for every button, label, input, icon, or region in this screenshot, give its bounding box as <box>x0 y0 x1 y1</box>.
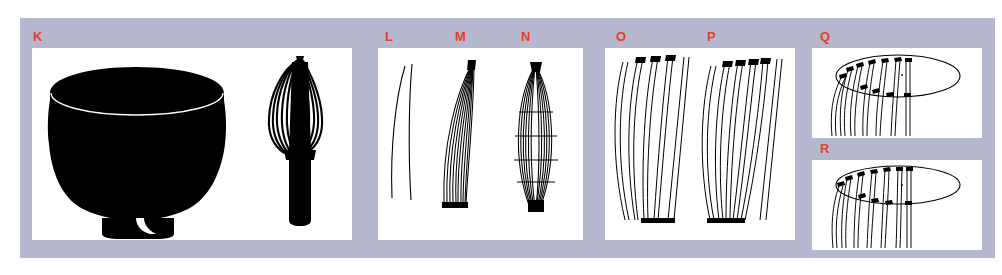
tine-bundle-curved-tip <box>467 60 476 70</box>
panel-op-drawing <box>605 48 795 240</box>
tine-bundle-curved-base <box>442 202 468 208</box>
panel-r-drawing <box>812 160 982 250</box>
panel-q <box>812 48 982 138</box>
tine-nodes-upper-r <box>845 167 913 181</box>
tine-sequence-p-base <box>707 218 745 223</box>
panel-label-q: Q <box>820 30 830 43</box>
panel-op <box>605 48 795 240</box>
tine-sequence-p <box>702 59 782 220</box>
tine-set-r <box>832 169 911 248</box>
panel-lmn <box>378 48 583 240</box>
tine-sequence-o-base <box>641 218 675 223</box>
rim-centre-mark-q <box>901 74 903 76</box>
panel-label-l: L <box>385 30 393 43</box>
tine-bundle-lens-tip <box>530 62 542 72</box>
panel-r <box>812 160 982 250</box>
chawan-bowl-silhouette <box>48 67 226 239</box>
tine-bundle-lens-base <box>528 200 544 212</box>
panel-label-n: N <box>521 30 530 43</box>
tine-set-q <box>831 60 910 136</box>
tine-nodes-upper-q <box>846 57 912 72</box>
chasen-whisk-silhouette <box>269 56 322 226</box>
tine-sequence-o-tips <box>635 55 676 63</box>
tine-outline-single <box>392 64 412 200</box>
tine-bundle-lens <box>514 66 558 208</box>
panel-label-o: O <box>616 30 626 43</box>
panel-label-m: M <box>455 30 466 43</box>
panel-label-k: K <box>33 30 42 43</box>
figure-plate: K <box>0 0 1002 275</box>
panel-lmn-drawing <box>378 48 583 240</box>
tine-sequence-p-tips <box>722 58 771 67</box>
tine-sequence-o <box>615 57 689 220</box>
panel-k-drawing <box>32 48 352 240</box>
panel-label-r: R <box>820 142 829 155</box>
panel-q-drawing <box>812 48 982 138</box>
panel-label-p: P <box>707 30 716 43</box>
panel-k <box>32 48 352 240</box>
tine-bundle-curved <box>444 62 474 204</box>
